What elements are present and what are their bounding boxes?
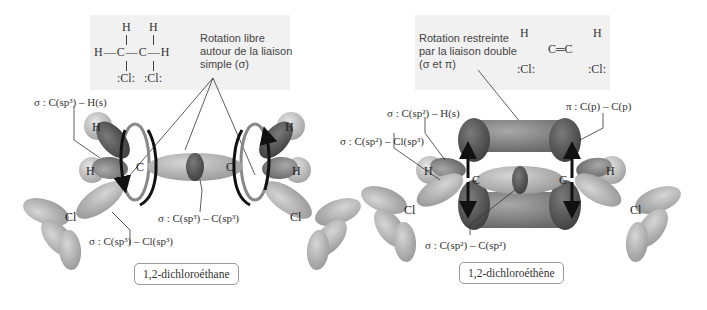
label-pi-cp-cp: π : C(p) – C(p) xyxy=(566,100,631,112)
label-c-sp2-c-sp2: σ : C(sp²) – C(sp²) xyxy=(425,239,506,251)
atom-cl: Cl xyxy=(65,210,77,224)
atom-h: H xyxy=(292,164,301,178)
atom-h: H xyxy=(424,164,433,178)
caption-dichloroethene: 1,2-dichloroéthène xyxy=(459,262,564,284)
atom-c: C xyxy=(472,173,480,187)
atom-c: C xyxy=(136,160,144,174)
atom-cl: Cl xyxy=(290,210,302,224)
right-note-leader xyxy=(478,70,525,128)
atom-c: C xyxy=(226,160,234,174)
atom-h: H xyxy=(606,164,615,178)
label-c-sp3-cl-sp3: σ : C(sp³) – Cl(sp³) xyxy=(89,235,173,247)
atom-c: C xyxy=(559,173,567,187)
label-c-sp3-h-s: σ : C(sp³) – H(s) xyxy=(34,96,107,108)
atom-cl: Cl xyxy=(630,203,642,217)
dichloroethane-model: H H H H C C Cl Cl xyxy=(19,112,364,271)
atom-h: H xyxy=(86,164,95,178)
label-c-sp3-c-sp3: σ : C(sp³) – C(sp³) xyxy=(158,212,239,224)
label-c-sp2-h-s: σ : C(sp²) – H(s) xyxy=(387,107,460,119)
atom-h: H xyxy=(92,120,101,134)
atom-cl: Cl xyxy=(404,203,416,217)
orbital-diagram: H H H H C C Cl Cl xyxy=(0,0,707,310)
label-c-sp2-cl-sp3: σ : C(sp²) – Cl(sp³) xyxy=(340,135,424,147)
caption-dichloroethane: 1,2-dichloroéthane xyxy=(134,263,239,285)
atom-h: H xyxy=(285,120,294,134)
